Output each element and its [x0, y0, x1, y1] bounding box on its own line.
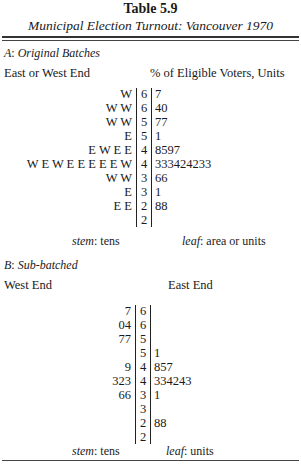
- plot-left-leaves: E E: [114, 199, 132, 213]
- plot-left-leaves: W W: [106, 115, 132, 129]
- table-title: Municipal Election Turnout: Vancouver 19…: [0, 18, 301, 34]
- plot-right-leaves: 1: [154, 388, 160, 402]
- plot-stem: 4: [136, 360, 150, 374]
- plot-stem: 6: [137, 101, 151, 115]
- plot-right-divider: [151, 88, 152, 227]
- plot-stem: 6: [136, 304, 150, 318]
- section-a-left-header: East or West End: [4, 66, 90, 81]
- plot-right-leaves: 334243: [154, 374, 192, 388]
- plot-stem: 3: [136, 402, 150, 416]
- section-b-left-header: West End: [4, 278, 52, 293]
- top-rule-thin: [2, 40, 299, 41]
- plot-left-divider: [135, 305, 136, 444]
- plot-right-leaves: 40: [155, 101, 168, 115]
- plot-right-leaves: 8597: [155, 143, 180, 157]
- section-b-label: B: Sub-batched: [4, 258, 78, 273]
- plot-stem: 6: [136, 318, 150, 332]
- plot-stem: 6: [137, 87, 151, 101]
- plot-left-leaves: 7: [125, 304, 131, 318]
- plot-stem: 2: [137, 213, 151, 227]
- plot-stem: 5: [136, 332, 150, 346]
- plot-stem: 3: [137, 171, 151, 185]
- plot-left-leaves: W E W E E E E E W: [27, 157, 132, 171]
- section-b-right-header: East End: [168, 278, 213, 293]
- plot-stem: 3: [137, 185, 151, 199]
- plot-right-leaves: 1: [154, 346, 160, 360]
- plot-left-leaves: E: [124, 185, 132, 199]
- plot-left-leaves: W: [120, 87, 132, 101]
- plot-left-divider: [136, 88, 137, 227]
- plot-left-leaves: E W E E: [88, 143, 132, 157]
- plot-left-leaves: 04: [119, 318, 132, 332]
- plot-stem: 5: [136, 346, 150, 360]
- plot-left-leaves: W W: [106, 101, 132, 115]
- plot-left-leaves: 323: [112, 374, 131, 388]
- plot-left-leaves: W W: [106, 171, 132, 185]
- table-number: Table 5.9: [0, 1, 301, 17]
- plot-right-leaves: 7: [155, 87, 161, 101]
- section-a-right-header: % of Eligible Voters, Units: [150, 66, 285, 81]
- plot-left-leaves: 9: [125, 360, 131, 374]
- plot-left-leaves: 77: [119, 332, 132, 346]
- plot-right-leaves: 857: [154, 360, 173, 374]
- section-b-leaf-note: leaf: units: [166, 444, 214, 459]
- plot-right-leaves: 1: [155, 185, 161, 199]
- plot-stem: 3: [136, 388, 150, 402]
- plot-left-leaves: E: [124, 129, 132, 143]
- bottom-rule: [2, 460, 299, 461]
- plot-left-leaves: 66: [119, 388, 132, 402]
- plot-stem: 2: [136, 430, 150, 444]
- plot-right-leaves: 333424233: [155, 157, 211, 171]
- plot-stem: 2: [137, 199, 151, 213]
- plot-right-leaves: 88: [154, 416, 167, 430]
- section-b-stem-note: stem: tens: [72, 444, 120, 459]
- plot-stem: 4: [137, 143, 151, 157]
- plot-stem: 2: [136, 416, 150, 430]
- section-a-stem-note: stem: tens: [72, 234, 120, 249]
- section-a-label: A: Original Batches: [4, 46, 100, 61]
- plot-right-leaves: 66: [155, 171, 168, 185]
- plot-stem: 4: [137, 157, 151, 171]
- plot-right-leaves: 77: [155, 115, 168, 129]
- plot-stem: 5: [137, 115, 151, 129]
- plot-right-leaves: 88: [155, 199, 168, 213]
- section-a-leaf-note: leaf: area or units: [182, 234, 266, 249]
- plot-stem: 5: [137, 129, 151, 143]
- plot-right-leaves: 1: [155, 129, 161, 143]
- plot-right-divider: [150, 305, 151, 444]
- plot-stem: 4: [136, 374, 150, 388]
- top-rule: [2, 36, 299, 38]
